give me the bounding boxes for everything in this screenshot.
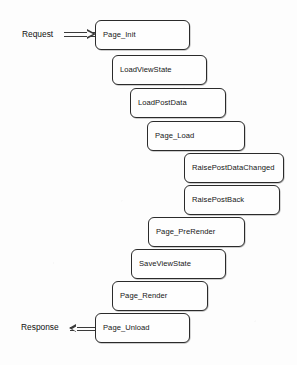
- page-lifecycle-diagram: Page_Init LoadViewState LoadPostData Pag…: [0, 0, 297, 365]
- node-page-prerender[interactable]: Page_PreRender: [148, 217, 245, 247]
- node-page-unload[interactable]: Page_Unload: [95, 313, 190, 343]
- arrow-head-inner: [87, 31, 93, 37]
- node-raise-post-back[interactable]: RaisePostBack: [184, 185, 280, 215]
- node-page-load[interactable]: Page_Load: [147, 121, 245, 151]
- node-label: Page_Render: [113, 292, 167, 300]
- node-label: LoadPostData: [131, 99, 187, 107]
- node-label: Page_Unload: [96, 324, 150, 332]
- node-label: LoadViewState: [113, 66, 172, 74]
- edge-label-request: Request: [22, 30, 53, 38]
- edge-label-response: Response: [21, 323, 59, 331]
- node-load-post-data[interactable]: LoadPostData: [130, 88, 226, 118]
- node-label: Page_PreRender: [149, 228, 215, 236]
- node-page-init[interactable]: Page_Init: [95, 20, 190, 50]
- node-label: SaveViewState: [132, 260, 191, 268]
- node-label: RaisePostBack: [185, 196, 244, 204]
- arrow-head-inner: [72, 326, 77, 332]
- node-raise-post-data-changed[interactable]: RaisePostDataChanged: [184, 153, 284, 183]
- node-label: RaisePostDataChanged: [185, 164, 274, 172]
- node-page-render[interactable]: Page_Render: [112, 281, 208, 311]
- node-save-view-state[interactable]: SaveViewState: [131, 249, 226, 279]
- node-label: Page_Load: [148, 132, 194, 140]
- node-load-view-state[interactable]: LoadViewState: [112, 55, 207, 85]
- node-label: Page_Init: [96, 31, 136, 39]
